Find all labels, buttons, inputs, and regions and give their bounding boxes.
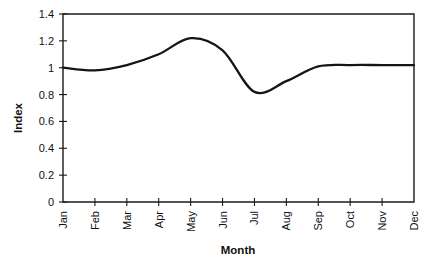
y-tick-label: 0.6 <box>39 115 54 127</box>
x-tick-label: Feb <box>89 211 101 230</box>
x-axis-title: Month <box>221 244 255 256</box>
x-tick-label: Jan <box>57 211 69 229</box>
x-tick-label: Nov <box>376 211 388 231</box>
x-tick-label: Aug <box>280 211 292 231</box>
x-tick-label: Mar <box>121 211 133 230</box>
chart-container: 00.20.40.60.811.21.4 JanFebMarAprMayJunJ… <box>0 0 436 264</box>
x-tick-label: Jul <box>248 211 260 225</box>
x-tick-label: Dec <box>408 211 420 231</box>
y-tick-label: 1.2 <box>39 35 54 47</box>
y-axis-title: Index <box>12 102 24 133</box>
y-tick-label: 0.2 <box>39 169 54 181</box>
line-chart: 00.20.40.60.811.21.4 JanFebMarAprMayJunJ… <box>0 0 436 264</box>
y-tick-label: 1 <box>48 62 54 74</box>
y-tick-label: 1.4 <box>39 8 54 20</box>
x-tick-label: Apr <box>153 211 165 228</box>
y-tick-label: 0.4 <box>39 142 54 154</box>
x-tick-label: Sep <box>312 211 324 231</box>
x-tick-label: Oct <box>344 211 356 228</box>
x-tick-label: Jun <box>217 211 229 229</box>
y-tick-label: 0.8 <box>39 89 54 101</box>
x-tick-label: May <box>185 211 197 232</box>
y-tick-label: 0 <box>48 196 54 208</box>
